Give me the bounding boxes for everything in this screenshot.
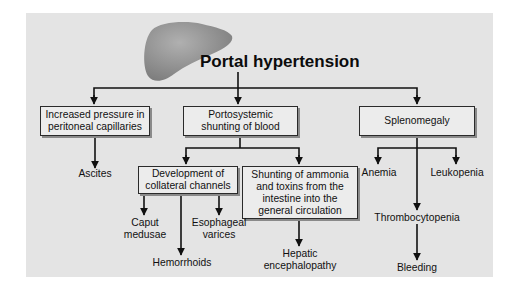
shunting-box: Portosystemic shunting of blood — [183, 106, 298, 136]
esophageal-varices-label: Esophageal varices — [186, 217, 252, 241]
hemorrhoids-label: Hemorrhoids — [146, 257, 218, 269]
hepatic-encephalopathy-label: Hepatic encephalopathy — [257, 248, 343, 272]
anemia-label: Anemia — [358, 167, 400, 179]
bleeding-label: Bleeding — [390, 262, 444, 274]
splenomegaly-box: Splenomegaly — [359, 106, 475, 136]
leukopenia-label: Leukopenia — [425, 167, 489, 179]
thrombocytopenia-label: Thrombocytopenia — [370, 212, 464, 224]
collateral-box: Development of collateral channels — [138, 166, 238, 194]
connector-level1 — [94, 88, 417, 103]
pressure-box: Increased pressure in peritoneal capilla… — [40, 106, 150, 136]
connector-lines — [0, 0, 515, 290]
caput-medusae-label: Caput medusae — [117, 217, 173, 241]
ammonia-box: Shunting of ammonia and toxins from the … — [242, 166, 358, 219]
ascites-label: Ascites — [70, 168, 120, 180]
